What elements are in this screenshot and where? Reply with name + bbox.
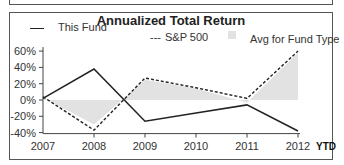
- ytd-label: YTD: [316, 141, 336, 152]
- y-tick-label: -20%: [10, 110, 36, 122]
- x-tick-label: 2008: [82, 140, 106, 152]
- y-tick-label: 0%: [20, 94, 36, 106]
- x-tick-label: 2010: [184, 140, 208, 152]
- x-tick-label: 2012: [286, 140, 310, 152]
- x-tick-label: 2009: [133, 140, 157, 152]
- plot-area: 60%40%20%0%-20%-40%200720082009201020112…: [0, 0, 344, 165]
- y-tick-label: -40%: [10, 127, 36, 139]
- y-tick-label: 40%: [14, 61, 36, 73]
- x-tick-label: 2007: [31, 140, 55, 152]
- x-tick-label: 2011: [235, 140, 259, 152]
- y-tick-label: 20%: [14, 78, 36, 90]
- avg-fund-type-area: [43, 53, 298, 125]
- y-tick-label: 60%: [14, 45, 36, 57]
